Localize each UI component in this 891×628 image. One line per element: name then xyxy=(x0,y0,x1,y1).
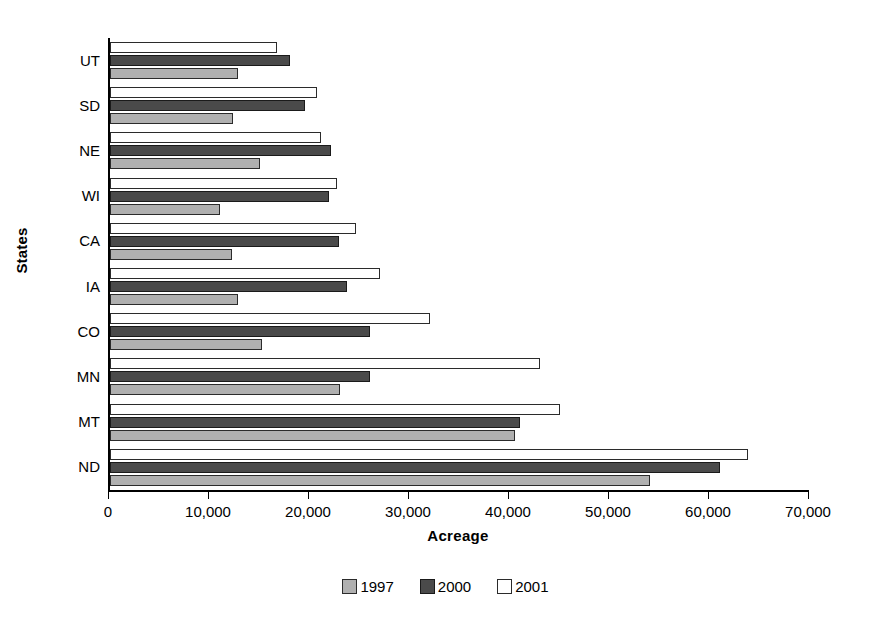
legend-swatch-1997 xyxy=(342,579,357,594)
x-axis-tick-label: 10,000 xyxy=(185,503,231,520)
legend-swatch-2001 xyxy=(497,579,512,594)
bar-nd-2001 xyxy=(110,449,748,460)
legend-item-2000: 2000 xyxy=(420,578,471,595)
y-axis-tick-label-ne: NE xyxy=(36,143,100,158)
bar-ut-2000 xyxy=(110,55,290,66)
bar-mt-1997 xyxy=(110,430,515,441)
x-axis-tick-label: 0 xyxy=(104,503,112,520)
y-axis-tick-label-co: CO xyxy=(36,324,100,339)
chart-legend: 199720002001 xyxy=(0,578,891,595)
legend-label-2000: 2000 xyxy=(438,578,471,595)
x-axis-tick xyxy=(308,490,309,499)
legend-item-1997: 1997 xyxy=(342,578,393,595)
bar-group xyxy=(110,174,808,219)
x-axis-tick xyxy=(708,490,709,499)
x-axis-tick-label: 60,000 xyxy=(685,503,731,520)
x-axis-tick xyxy=(208,490,209,499)
x-axis-tick xyxy=(508,490,509,499)
bar-wi-2001 xyxy=(110,178,337,189)
legend-swatch-2000 xyxy=(420,579,435,594)
bar-wi-2000 xyxy=(110,191,329,202)
bar-co-1997 xyxy=(110,339,262,350)
legend-label-1997: 1997 xyxy=(360,578,393,595)
bar-ca-1997 xyxy=(110,249,232,260)
bar-ne-2000 xyxy=(110,145,331,156)
bar-ia-1997 xyxy=(110,294,238,305)
y-axis-tick-label-ia: IA xyxy=(36,279,100,294)
plot-area: 010,00020,00030,00040,00050,00060,00070,… xyxy=(108,38,808,490)
bar-ne-2001 xyxy=(110,132,321,143)
bar-wi-1997 xyxy=(110,204,220,215)
bar-group xyxy=(110,219,808,264)
bar-group xyxy=(110,83,808,128)
y-axis-tick-labels: NDMTMNCOIACAWINESDUT xyxy=(26,38,100,490)
x-axis-tick-label: 20,000 xyxy=(285,503,331,520)
bar-ia-2000 xyxy=(110,281,347,292)
x-axis-tick-label: 50,000 xyxy=(585,503,631,520)
x-axis-tick xyxy=(408,490,409,499)
legend-item-2001: 2001 xyxy=(497,578,548,595)
bar-ut-1997 xyxy=(110,68,238,79)
y-axis-tick-label-wi: WI xyxy=(36,188,100,203)
bar-group xyxy=(110,128,808,173)
bar-nd-2000 xyxy=(110,462,720,473)
bar-mt-2000 xyxy=(110,417,520,428)
bar-sd-2001 xyxy=(110,87,317,98)
bar-mn-1997 xyxy=(110,384,340,395)
legend-label-2001: 2001 xyxy=(515,578,548,595)
bar-group xyxy=(110,400,808,445)
bar-mn-2000 xyxy=(110,371,370,382)
bar-mn-2001 xyxy=(110,358,540,369)
bar-group xyxy=(110,445,808,490)
bar-sd-1997 xyxy=(110,113,233,124)
y-axis-tick-label-nd: ND xyxy=(36,459,100,474)
y-axis-tick-label-ca: CA xyxy=(36,233,100,248)
x-axis-tick-label: 40,000 xyxy=(485,503,531,520)
bar-ne-1997 xyxy=(110,158,260,169)
bar-nd-1997 xyxy=(110,475,650,486)
y-axis-tick-label-sd: SD xyxy=(36,98,100,113)
y-axis-tick-label-mt: MT xyxy=(36,414,100,429)
bar-ca-2001 xyxy=(110,223,356,234)
y-axis-tick-label-mn: MN xyxy=(36,369,100,384)
bar-co-2000 xyxy=(110,326,370,337)
bar-mt-2001 xyxy=(110,404,560,415)
x-axis-tick-label: 70,000 xyxy=(785,503,831,520)
x-axis-title-text: Acreage xyxy=(427,527,488,544)
y-axis-tick-label-ut: UT xyxy=(36,53,100,68)
bar-ca-2000 xyxy=(110,236,339,247)
x-axis-tick xyxy=(108,490,109,499)
x-axis-line xyxy=(108,490,808,492)
bar-group xyxy=(110,38,808,83)
x-axis-title: Acreage xyxy=(108,527,808,544)
bar-co-2001 xyxy=(110,313,430,324)
bar-group xyxy=(110,354,808,399)
x-axis-tick-label: 30,000 xyxy=(385,503,431,520)
bar-sd-2000 xyxy=(110,100,305,111)
bar-ut-2001 xyxy=(110,42,277,53)
bar-chart: States NDMTMNCOIACAWINESDUT 010,00020,00… xyxy=(0,0,891,628)
x-axis-tick xyxy=(608,490,609,499)
bar-group xyxy=(110,264,808,309)
bar-ia-2001 xyxy=(110,268,380,279)
x-axis-tick xyxy=(808,490,809,499)
bar-group xyxy=(110,309,808,354)
